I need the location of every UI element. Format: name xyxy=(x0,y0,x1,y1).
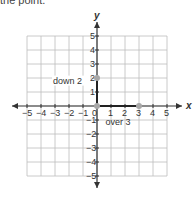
data-point xyxy=(94,75,100,81)
y-tick-label: 4 xyxy=(90,45,95,55)
annotation-down: down 2 xyxy=(53,76,82,86)
x-axis-label: x xyxy=(185,100,192,111)
coordinate-plane: xy−5−4−3−2−1012345−5−4−3−2−112345down 2o… xyxy=(0,0,194,201)
y-axis-arrow-up-icon xyxy=(94,22,100,28)
y-tick-label: 1 xyxy=(90,87,95,97)
y-tick-label: −2 xyxy=(86,129,96,139)
x-axis-arrow-left-icon xyxy=(12,103,18,109)
y-axis-arrow-down-icon xyxy=(94,182,100,188)
x-tick-label: −5 xyxy=(22,108,32,118)
x-tick-label: −3 xyxy=(50,108,60,118)
y-axis-label: y xyxy=(93,10,100,21)
x-tick-label: −2 xyxy=(64,108,74,118)
header-text: the point. xyxy=(0,0,45,6)
y-tick-label: −3 xyxy=(86,143,96,153)
x-tick-label: 3 xyxy=(136,108,141,118)
data-point xyxy=(94,103,100,109)
y-tick-label: 3 xyxy=(90,59,95,69)
annotation-over: over 3 xyxy=(105,117,130,127)
x-tick-label: −4 xyxy=(36,108,46,118)
x-tick-label: 4 xyxy=(150,108,155,118)
y-tick-label: −5 xyxy=(86,171,96,181)
x-axis-arrow-right-icon xyxy=(176,103,182,109)
y-tick-label: −4 xyxy=(86,157,96,167)
y-tick-label: 5 xyxy=(90,31,95,41)
x-tick-label: 5 xyxy=(164,108,169,118)
y-tick-label: −1 xyxy=(86,115,96,125)
data-point xyxy=(136,103,142,109)
